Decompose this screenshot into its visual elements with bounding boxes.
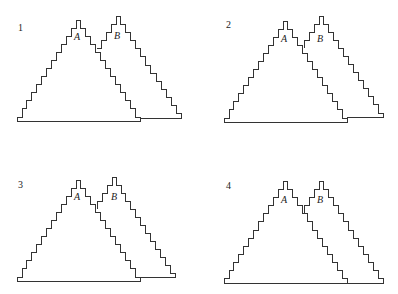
staircase-triangles-figure: 1 A B 2 A B 3 A B 4 A B <box>0 0 398 294</box>
panel-number-label: 1 <box>18 22 23 33</box>
panel-number-label: 2 <box>226 19 231 30</box>
triangle-b-outline <box>305 16 383 117</box>
triangle-b-outline <box>97 177 175 277</box>
triangle-a-label: A <box>73 31 81 42</box>
panel-number-label: 3 <box>18 179 23 190</box>
triangle-b-outline <box>97 16 181 118</box>
panel-3: 3 A B <box>17 177 175 281</box>
triangle-a-label: A <box>73 191 81 202</box>
panel-number-label: 4 <box>226 180 231 191</box>
triangle-b-label: B <box>111 191 117 202</box>
triangle-b-label: B <box>114 30 120 41</box>
panel-2: 2 A B <box>224 16 383 122</box>
triangle-b-label: B <box>317 194 323 205</box>
triangle-b-label: B <box>317 33 323 44</box>
triangle-a-label: A <box>280 194 288 205</box>
triangle-a-label: A <box>280 33 288 44</box>
panel-4: 4 A B <box>224 180 383 283</box>
panel-1: 1 A B <box>17 16 181 121</box>
